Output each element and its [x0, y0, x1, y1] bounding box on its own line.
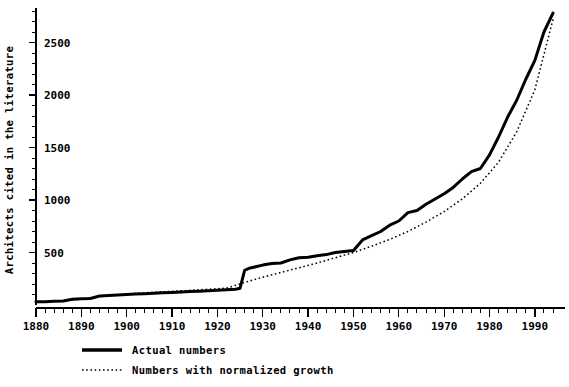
y-axis-title-text: Architects cited in the literature	[3, 46, 15, 275]
x-tick-label: 1880	[23, 320, 50, 333]
chart-container: 5001000150020002500 18801890190019101920…	[0, 0, 569, 387]
x-tick-label: 1990	[522, 320, 549, 333]
x-tick-label: 1900	[113, 320, 140, 333]
y-tick-label: 500	[44, 247, 64, 260]
x-tick-label: 1910	[159, 320, 186, 333]
y-axis-tick-labels: 5001000150020002500	[44, 37, 71, 260]
data-series	[36, 13, 553, 302]
y-tick-label: 1500	[44, 142, 71, 155]
y-axis-title: Architects cited in the literature	[3, 46, 15, 275]
x-axis-tick-labels: 1880189019001910192019301940195019601970…	[23, 320, 548, 333]
legend-label: Numbers with normalized growth	[132, 364, 334, 376]
line-chart: 5001000150020002500 18801890190019101920…	[0, 0, 569, 387]
x-tick-label: 1890	[68, 320, 95, 333]
chart-legend: Actual numbersNumbers with normalized gr…	[82, 344, 334, 376]
y-tick-label: 1000	[44, 194, 71, 207]
axis-ticks	[29, 11, 553, 317]
x-tick-label: 1980	[476, 320, 503, 333]
x-tick-label: 1940	[295, 320, 322, 333]
x-tick-label: 1960	[386, 320, 413, 333]
y-tick-label: 2500	[44, 37, 71, 50]
legend-label: Actual numbers	[132, 344, 226, 356]
x-tick-label: 1930	[250, 320, 277, 333]
series-actual-numbers	[36, 13, 553, 302]
y-tick-label: 2000	[44, 89, 71, 102]
x-tick-label: 1920	[204, 320, 231, 333]
x-tick-label: 1950	[340, 320, 367, 333]
x-tick-label: 1970	[431, 320, 458, 333]
